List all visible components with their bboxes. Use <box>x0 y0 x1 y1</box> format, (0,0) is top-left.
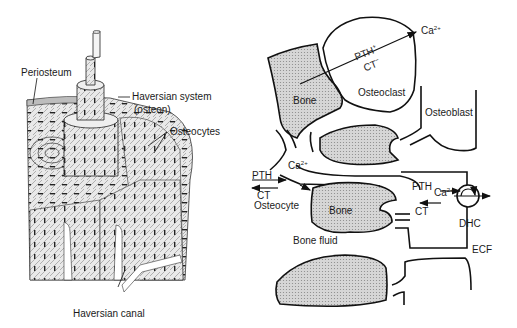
label-bone-fluid: Bone fluid <box>293 235 337 246</box>
bone-cutaway-illustration <box>0 0 250 328</box>
label-ca-left: Ca2+ <box>288 158 308 171</box>
label-ct-right: CT <box>415 206 428 217</box>
label-haversian-canal: Haversian canal <box>73 308 145 319</box>
label-ecf: ECF <box>472 244 492 255</box>
label-ca-top: Ca2+ <box>421 23 441 36</box>
label-bone-mid: Bone <box>329 205 352 216</box>
label-dhc: DHC <box>459 218 481 229</box>
label-osteon: (osteon) <box>134 104 171 115</box>
label-periosteum: Periosteum <box>21 67 72 78</box>
label-osteoclast: Osteoclast <box>358 87 405 98</box>
label-osteoblast: Osteoblast <box>425 107 473 118</box>
label-pth-left: PTH <box>252 170 272 181</box>
label-osteocytes: Osteocytes <box>170 126 220 137</box>
label-ca-right: Ca2+ <box>434 185 454 198</box>
label-pth-right: PTH <box>412 181 432 192</box>
label-haversian-system: Haversian system <box>132 91 211 102</box>
label-bone-top: Bone <box>293 95 316 106</box>
label-osteocyte: Osteocyte <box>254 200 299 211</box>
